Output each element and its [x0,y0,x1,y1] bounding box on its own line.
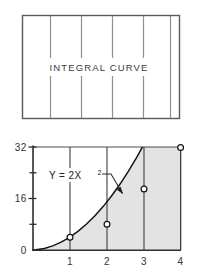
x-axis-label-4: 4 [178,256,184,267]
data-point-marker-1 [67,234,73,240]
x-axis-label-3: 3 [141,256,147,267]
equation-exponent: 2 [98,169,102,176]
caption-panel-group: INTEGRAL CURVE [23,16,180,119]
equation-annotation: Y = 2X 2 [47,168,123,194]
equation-label: Y = 2X [49,170,82,181]
figure-canvas: INTEGRAL CURVE [0,0,198,270]
integral-curve-figure: INTEGRAL CURVE [0,0,198,270]
y-axis-label-16: 16 [15,193,27,204]
data-point-marker-3 [141,186,147,192]
data-point-marker-4 [178,145,184,151]
y-axis-label-32: 32 [15,142,27,153]
caption-label: INTEGRAL CURVE [50,62,149,73]
x-axis-label-1: 1 [67,256,73,267]
x-axis-label-2: 2 [104,256,110,267]
y-axis-label-0: 0 [21,245,27,256]
data-point-marker-2 [104,221,110,227]
